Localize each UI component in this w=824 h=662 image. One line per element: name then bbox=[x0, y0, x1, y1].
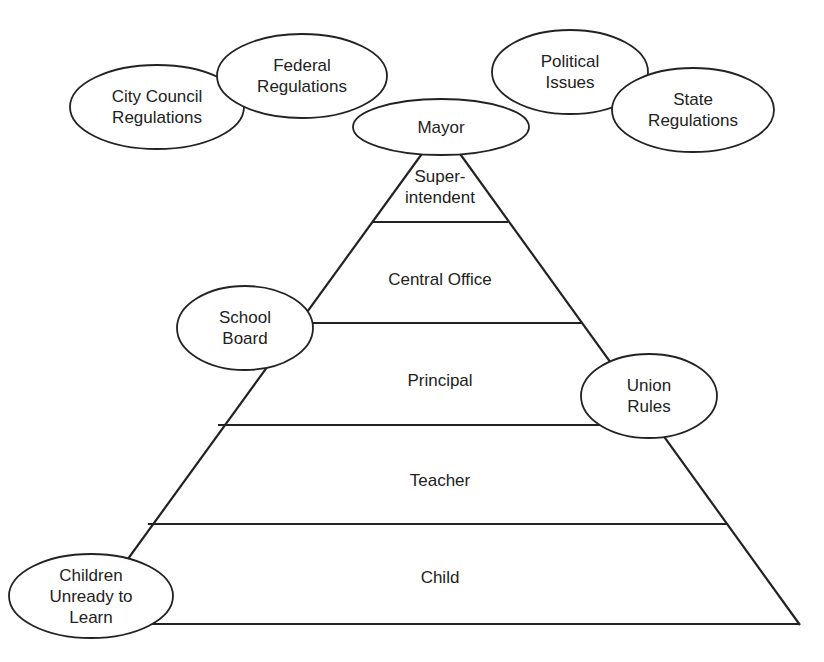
pyramid-left-edge bbox=[80, 133, 437, 625]
label-union-rules: Union Rules bbox=[627, 375, 671, 417]
level-teacher: Teacher bbox=[410, 470, 470, 491]
label-political: Political Issues bbox=[541, 51, 600, 93]
label-state: State Regulations bbox=[648, 89, 738, 131]
label-children-unready: Children Unready to Learn bbox=[49, 565, 132, 628]
level-central-office: Central Office bbox=[388, 269, 492, 290]
label-mayor: Mayor bbox=[417, 117, 464, 138]
level-principal: Principal bbox=[407, 370, 472, 391]
level-superintendent: Super- intendent bbox=[405, 166, 475, 208]
level-child: Child bbox=[421, 567, 460, 588]
label-school-board: School Board bbox=[219, 307, 271, 349]
label-federal: Federal Regulations bbox=[257, 55, 347, 97]
label-city-council: City Council Regulations bbox=[112, 86, 203, 128]
